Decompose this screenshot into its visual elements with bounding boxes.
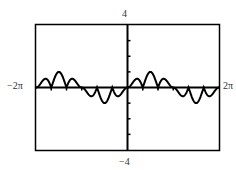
x-max-label: 2π — [223, 81, 233, 91]
plot-area — [0, 0, 236, 170]
y-max-label: 4 — [122, 9, 127, 19]
y-min-label: −4 — [119, 157, 130, 167]
x-min-label: −2π — [7, 81, 23, 91]
